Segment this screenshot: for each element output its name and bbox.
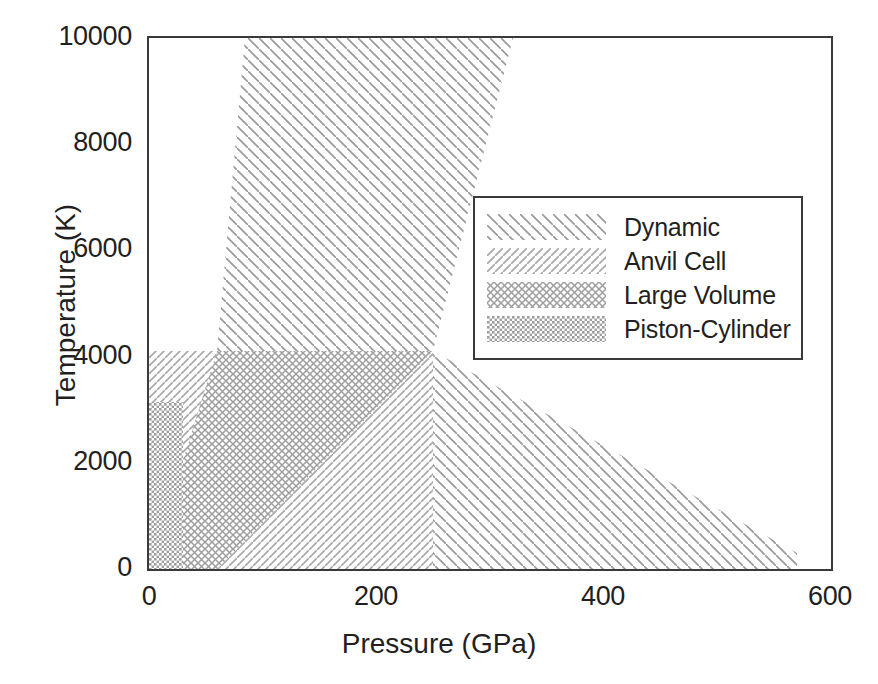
legend-item-large-volume[interactable]: Large Volume [487,278,791,312]
legend-item-piston-cylinder[interactable]: Piston-Cylinder [487,312,791,346]
legend-label-large-volume: Large Volume [606,281,776,310]
x-tick-600: 600 [808,581,852,612]
x-tick-0: 0 [142,581,157,612]
legend-label-piston-cylinder: Piston-Cylinder [606,315,791,344]
region-piston-cylinder [149,402,183,569]
phase-diagram-figure: 10000 8000 6000 4000 2000 0 [0,0,878,684]
legend-item-dynamic[interactable]: Dynamic [487,210,791,244]
x-axis-tick-labels: 0 200 400 600 [0,581,878,621]
y-axis-title: Temperature (K) [50,25,82,585]
x-tick-200: 200 [354,581,398,612]
legend-swatch-large-volume [487,282,606,308]
legend: Dynamic Anvil Cell [473,196,803,360]
x-axis-title: Pressure (GPa) [0,628,878,660]
legend-swatch-piston-cylinder [487,316,606,342]
legend-label-anvil-cell: Anvil Cell [606,247,726,276]
legend-swatch-dynamic [487,214,606,240]
legend-swatch-anvil-cell [487,248,606,274]
legend-label-dynamic: Dynamic [606,213,720,242]
x-tick-400: 400 [581,581,625,612]
legend-item-anvil-cell[interactable]: Anvil Cell [487,244,791,278]
y-tick-0: 0 [117,552,132,583]
